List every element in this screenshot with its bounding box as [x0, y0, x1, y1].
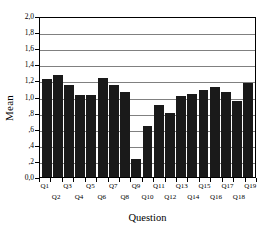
y-axis-tick-label: ,6 [16, 126, 34, 134]
x-axis-tick-label-q18: Q18 [233, 194, 245, 201]
bar-slot [231, 18, 242, 177]
y-axis-tick-label: ,8 [16, 110, 34, 118]
x-axis-tick-label-q17: Q17 [221, 183, 233, 190]
bar-chart: Mean 2,01,81,61,41,21,0,8,6,4,20,0 Q1Q2Q… [0, 0, 273, 238]
bar-slot [41, 18, 52, 177]
bar-slot [243, 18, 254, 177]
bar-q11 [154, 105, 164, 177]
bar-slot [209, 18, 220, 177]
x-axis-title: Question [39, 212, 256, 223]
bar-q19 [243, 83, 253, 177]
y-axis-tick-label: 0,0 [16, 174, 34, 182]
bar-q4 [75, 95, 85, 177]
bar-slot [198, 18, 209, 177]
y-axis-tick-label: ,4 [16, 142, 34, 150]
x-axis-tick-label-q1: Q1 [40, 183, 49, 190]
y-axis-tick-label: 2,0 [16, 13, 34, 21]
x-axis-tick-label-q2: Q2 [52, 194, 61, 201]
y-axis-tick-label: 1,6 [16, 45, 34, 53]
bar-q13 [176, 96, 186, 177]
bar-q6 [98, 78, 108, 177]
x-axis-tick-label-q3: Q3 [63, 183, 72, 190]
bar-q10 [143, 126, 153, 177]
bar-slot [131, 18, 142, 177]
x-axis-tick-label-q7: Q7 [109, 183, 118, 190]
x-axis-tick-label-q5: Q5 [86, 183, 95, 190]
bar-q3 [64, 85, 74, 177]
x-axis-tick-label-q13: Q13 [176, 183, 188, 190]
bar-slot [164, 18, 175, 177]
bar-slot [153, 18, 164, 177]
y-axis-tick-labels: 2,01,81,61,41,21,0,8,6,4,20,0 [16, 17, 34, 178]
x-axis-tick-label-q14: Q14 [187, 194, 199, 201]
bar-series [40, 18, 255, 177]
y-axis-title: Mean [2, 78, 16, 138]
y-axis-tick-label: 1,2 [16, 78, 34, 86]
x-axis-tick-label-q10: Q10 [141, 194, 153, 201]
bar-q9 [131, 159, 141, 178]
bar-q18 [232, 101, 242, 177]
y-axis-tick-label: 1,8 [16, 29, 34, 37]
bar-slot [75, 18, 86, 177]
bar-slot [108, 18, 119, 177]
bar-slot [175, 18, 186, 177]
bar-slot [220, 18, 231, 177]
bar-q2 [53, 75, 63, 177]
bar-q16 [210, 87, 220, 177]
bar-slot [63, 18, 74, 177]
bar-slot [187, 18, 198, 177]
x-axis-tick-label-q19: Q19 [244, 183, 256, 190]
x-axis-tick-label-q11: Q11 [153, 183, 165, 190]
x-axis-tick-label-q9: Q9 [132, 183, 141, 190]
bar-slot [86, 18, 97, 177]
x-axis-tick-label-q12: Q12 [164, 194, 176, 201]
bar-q5 [86, 95, 96, 177]
x-axis-tick-label-q15: Q15 [199, 183, 211, 190]
y-axis-title-text: Mean [3, 95, 15, 121]
plot-area [39, 17, 256, 178]
x-axis-tick-label-q16: Q16 [210, 194, 222, 201]
x-axis-tick-label-q8: Q8 [120, 194, 129, 201]
x-axis-tick-label-q4: Q4 [75, 194, 84, 201]
bar-q8 [120, 92, 130, 177]
y-axis-tick-label: ,2 [16, 158, 34, 166]
bar-q1 [42, 79, 52, 177]
bar-q15 [199, 90, 209, 177]
bar-slot [119, 18, 130, 177]
bar-q17 [221, 92, 231, 177]
bar-q7 [109, 85, 119, 177]
bar-slot [52, 18, 63, 177]
bar-slot [142, 18, 153, 177]
y-axis-tick-label: 1,4 [16, 62, 34, 70]
x-axis-tick-label-q6: Q6 [98, 194, 107, 201]
bar-q12 [165, 113, 175, 177]
bar-slot [97, 18, 108, 177]
x-axis-tick-labels: Q1Q2Q3Q4Q5Q6Q7Q8Q9Q10Q11Q12Q13Q14Q15Q16Q… [39, 182, 256, 204]
y-axis-tick-label: 1,0 [16, 94, 34, 102]
bar-q14 [187, 94, 197, 177]
